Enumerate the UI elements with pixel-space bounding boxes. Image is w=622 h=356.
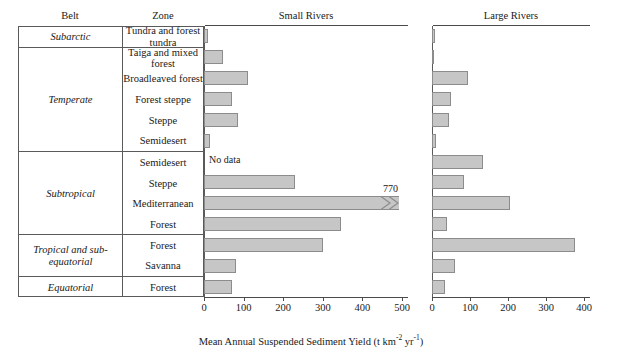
bar (432, 196, 510, 210)
zone-cell: Savanna (123, 256, 203, 277)
zone-cell: Forest (123, 277, 203, 298)
axis-tick-label: 300 (303, 302, 343, 313)
zone-cell: Steppe (123, 110, 203, 131)
belt-cell: Subarctic (19, 27, 122, 48)
belt-cell: Equatorial (19, 277, 122, 298)
zone-cell: Semidesert (123, 152, 203, 173)
bar (432, 113, 449, 127)
small-rivers-plot: No data770 (204, 26, 408, 297)
large-rivers-plot (432, 26, 590, 297)
axis-tick (244, 297, 245, 301)
zone-column: Tundra and forest tundraTaiga and mixed … (123, 27, 203, 296)
belt-zone-table: SubarcticTemperateSubtropicalTropical an… (18, 26, 204, 297)
bar (204, 71, 248, 85)
axis-tick-label: 300 (526, 302, 566, 313)
axis-tick (470, 297, 471, 301)
zone-cell: Forest steppe (123, 90, 203, 111)
axis-tick-label: 400 (564, 302, 604, 313)
axis-break-marker (379, 196, 401, 210)
bar (432, 217, 447, 231)
axis-tick (323, 297, 324, 301)
belt-cell: Tropical and sub-equatorial (19, 235, 122, 277)
small-rivers-axis-line (204, 297, 408, 298)
small-rivers-baseline (204, 26, 205, 297)
zone-cell: Broadleaved forest (123, 69, 203, 90)
column-header-zone: Zone (122, 8, 204, 24)
bar (204, 92, 232, 106)
axis-title: Mean Annual Suspended Sediment Yield (t … (0, 333, 622, 347)
axis-tick (508, 297, 509, 301)
zone-cell: Forest (123, 235, 203, 256)
small-rivers-x-axis: 0100200300400500 (204, 297, 408, 327)
axis-tick-label: 0 (412, 302, 452, 313)
bar (432, 29, 435, 43)
axis-tick (546, 297, 547, 301)
axis-tick-label: 200 (488, 302, 528, 313)
axis-tick-label: 0 (184, 302, 224, 313)
bar (432, 71, 468, 85)
axis-tick-label: 400 (342, 302, 382, 313)
axis-tick (283, 297, 284, 301)
axis-tick-label: 200 (263, 302, 303, 313)
bar (432, 238, 575, 252)
zone-cell: Semidesert (123, 131, 203, 152)
bar (204, 196, 399, 210)
bar (204, 217, 341, 231)
no-data-label: No data (209, 154, 240, 165)
bar (204, 175, 295, 189)
chart-figure: Belt Zone Small Rivers Large Rivers Suba… (0, 0, 622, 356)
axis-tick (362, 297, 363, 301)
bar (432, 280, 445, 294)
bar (204, 259, 236, 273)
bar (432, 134, 436, 148)
bar (204, 280, 232, 294)
bar (432, 259, 455, 273)
zone-cell: Forest (123, 215, 203, 236)
bar (432, 92, 451, 106)
axis-tick (584, 297, 585, 301)
bar (204, 238, 323, 252)
axis-tick (432, 297, 433, 301)
axis-tick (204, 297, 205, 301)
bar (432, 175, 464, 189)
axis-tick-label: 100 (450, 302, 490, 313)
large-rivers-x-axis: 0100200300400 (432, 297, 590, 327)
belt-cell: Temperate (19, 48, 122, 152)
bar (204, 29, 208, 43)
zone-cell: Mediterranean (123, 194, 203, 215)
zone-cell: Steppe (123, 173, 203, 194)
bar (204, 134, 210, 148)
zone-cell: Tundra and forest tundra (123, 27, 203, 48)
bar (204, 113, 238, 127)
panel-title-small-rivers: Small Rivers (204, 8, 408, 24)
large-rivers-axis-line (432, 297, 590, 298)
axis-tick (402, 297, 403, 301)
axis-tick-label: 100 (224, 302, 264, 313)
bar (432, 50, 434, 64)
bar (432, 155, 483, 169)
zone-cell: Taiga and mixed forest (123, 48, 203, 69)
belt-column: SubarcticTemperateSubtropicalTropical an… (19, 27, 123, 296)
belt-cell: Subtropical (19, 152, 122, 235)
bar-value-label: 770 (383, 183, 398, 194)
panel-title-large-rivers: Large Rivers (432, 8, 590, 24)
bar (204, 50, 223, 64)
column-header-belt: Belt (18, 8, 122, 24)
